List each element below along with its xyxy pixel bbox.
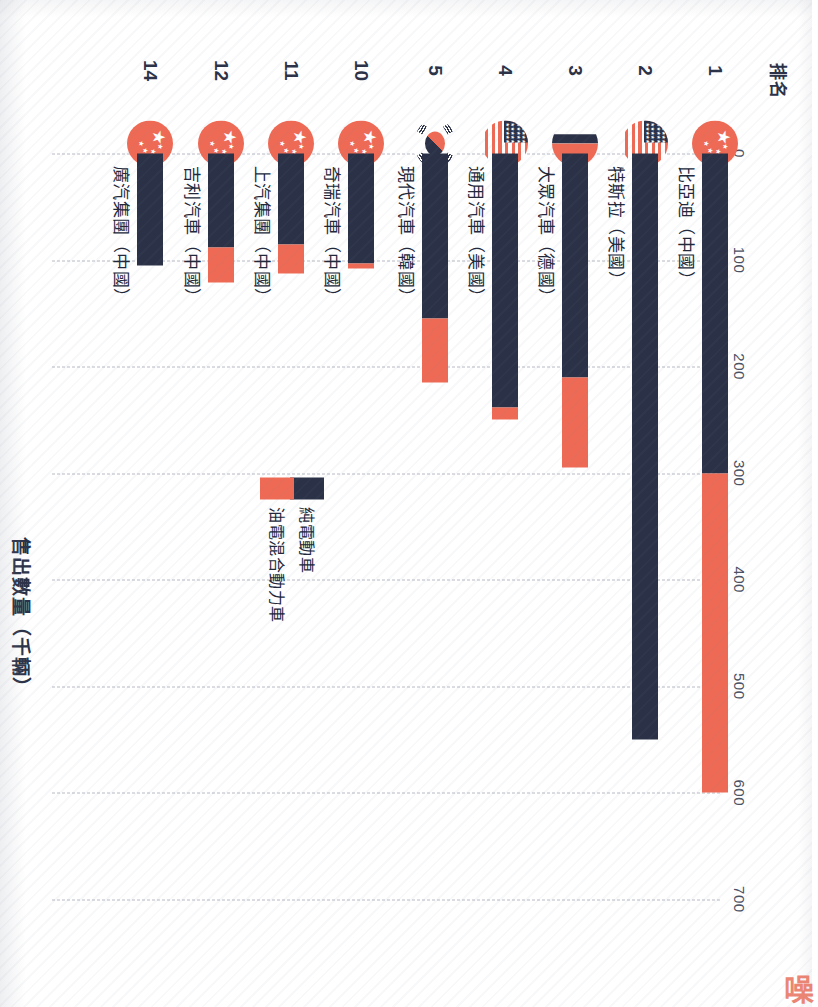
bar-segment-bev	[632, 153, 658, 739]
bar-category-label: 廣汽集團（中國）	[110, 165, 135, 305]
axis-tick-label: 200	[731, 353, 748, 380]
bar-segment-phev	[702, 473, 728, 793]
gridline	[52, 686, 720, 687]
bar-category-label: 現代汽車（韓國）	[395, 165, 420, 305]
legend-label: 純電動車	[296, 507, 320, 573]
axis-tick-label: 300	[731, 459, 748, 486]
bar-segment-bev	[208, 153, 234, 247]
gridline	[52, 366, 720, 367]
bar-segment-bev	[562, 153, 588, 377]
legend-swatch	[290, 477, 324, 499]
axis-tick-label: 600	[731, 779, 748, 806]
rank-number: 10	[350, 59, 372, 80]
rank-number: 3	[564, 65, 586, 76]
legend-label: 油電混合動力車	[266, 507, 290, 623]
bar-segment-phev	[278, 244, 304, 274]
rank-number: 11	[280, 60, 302, 80]
legend-swatch	[260, 477, 294, 499]
axis-tick-label: 100	[731, 246, 748, 273]
bar-segment-bev	[422, 153, 448, 318]
rank-number: 12	[210, 59, 232, 80]
bar-segment-bev	[348, 153, 374, 263]
value-axis-title: 售出數量（千輛）	[9, 537, 36, 697]
bar-category-label: 特斯拉（美國）	[605, 165, 630, 288]
rank-number: 5	[424, 65, 446, 76]
bar-category-label: 大眾汽車（德國）	[535, 165, 560, 305]
bar-category-label: 奇瑞汽車（中國）	[321, 165, 346, 305]
gridline	[52, 792, 720, 793]
bar-segment-bev	[492, 153, 518, 407]
rank-number: 2	[634, 65, 656, 76]
rank-axis-title: 排名	[767, 62, 792, 98]
axis-tick-label: 500	[731, 672, 748, 699]
gridline	[52, 579, 720, 580]
bar-category-label: 比亞迪（中國）	[675, 165, 700, 288]
bar-segment-phev	[562, 377, 588, 468]
rank-number: 4	[494, 65, 516, 76]
watermark-logo: 噪	[784, 975, 818, 1007]
bar-segment-bev	[278, 153, 304, 244]
axis-tick-label: 700	[731, 886, 748, 913]
rank-number: 14	[139, 59, 161, 80]
bar-segment-bev	[137, 153, 163, 265]
bar-category-label: 吉利汽車（中國）	[181, 165, 206, 305]
axis-tick-label: 400	[731, 566, 748, 593]
bar-segment-phev	[422, 318, 448, 382]
rank-number: 1	[704, 65, 726, 76]
bar-segment-phev	[492, 407, 518, 420]
bar-category-label: 通用汽車（美國）	[465, 165, 490, 305]
gridline	[52, 899, 720, 900]
gridline	[52, 473, 720, 474]
bar-segment-phev	[348, 263, 374, 268]
bar-segment-bev	[702, 153, 728, 473]
bar-segment-phev	[208, 247, 234, 282]
bar-category-label: 上汽集團（中國）	[251, 165, 276, 305]
